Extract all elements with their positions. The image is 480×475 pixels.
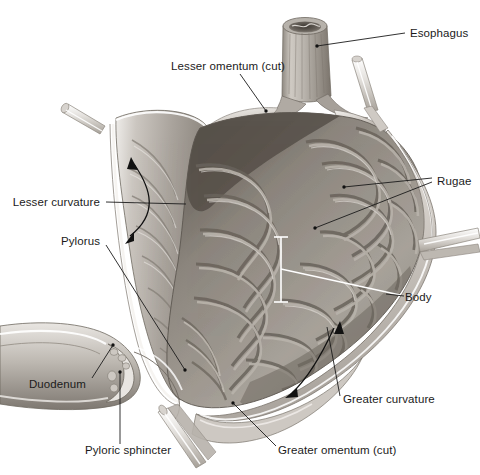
label-body: Body bbox=[405, 291, 432, 303]
label-lesser-curvature: Lesser curvature bbox=[13, 196, 100, 208]
label-rugae: Rugae bbox=[437, 175, 471, 187]
label-pyloric-sphincter: Pyloric sphincter bbox=[85, 444, 171, 456]
label-pylorus: Pylorus bbox=[61, 235, 100, 247]
label-greater-omentum-cut: Greater omentum (cut) bbox=[278, 444, 396, 456]
label-esophagus: Esophagus bbox=[410, 27, 468, 39]
label-lesser-omentum-cut: Lesser omentum (cut) bbox=[171, 60, 285, 72]
label-greater-curvature: Greater curvature bbox=[343, 393, 435, 405]
label-duodenum: Duodenum bbox=[29, 378, 86, 390]
anatomy-figure: Esophagus Lesser omentum (cut) Rugae Les… bbox=[0, 0, 480, 475]
